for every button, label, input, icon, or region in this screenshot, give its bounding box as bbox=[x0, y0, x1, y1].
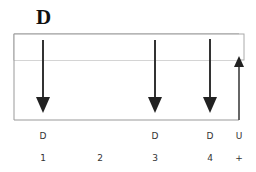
up-arrow bbox=[234, 56, 244, 120]
arrow-label-3: D bbox=[152, 131, 159, 141]
number-3: 3 bbox=[152, 153, 158, 163]
arrow-label-1: D bbox=[40, 131, 47, 141]
arrow-diagram bbox=[0, 0, 256, 172]
arrow-label-4: D bbox=[207, 131, 214, 141]
number-2: 2 bbox=[97, 153, 103, 163]
number-1: 1 bbox=[40, 153, 46, 163]
arrow-label-up: U bbox=[236, 131, 243, 141]
number-plus: + bbox=[235, 153, 243, 163]
number-4: 4 bbox=[207, 153, 213, 163]
